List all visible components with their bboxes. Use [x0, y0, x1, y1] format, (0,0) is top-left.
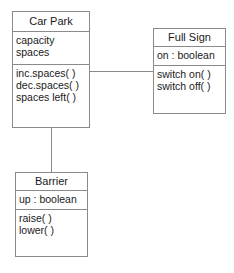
operation: raise( ) — [19, 212, 85, 224]
operations-section: inc.spaces( ) dec.spaces( ) spaces left(… — [13, 65, 89, 103]
operation: switch on( ) — [157, 68, 223, 80]
association-carpark-fullsign — [89, 71, 153, 72]
class-name: Car Park — [13, 12, 89, 32]
class-name: Barrier — [16, 173, 87, 191]
operation: dec.spaces( ) — [16, 79, 87, 91]
attribute: up : boolean — [19, 193, 85, 205]
attribute: on : boolean — [157, 49, 223, 61]
attributes-section: up : boolean — [16, 191, 87, 210]
operations-section: raise( ) lower( ) — [16, 210, 87, 236]
attribute: spaces — [16, 46, 87, 58]
operation: inc.spaces( ) — [16, 67, 87, 79]
operation: spaces left( ) — [16, 91, 87, 103]
operations-section: switch on( ) switch off( ) — [154, 66, 225, 92]
class-name: Full Sign — [154, 29, 225, 47]
attributes-section: on : boolean — [154, 47, 225, 66]
attribute: capacity — [16, 34, 87, 46]
operation: lower( ) — [19, 224, 85, 236]
attributes-section: capacity spaces — [13, 32, 89, 65]
operation: switch off( ) — [157, 80, 223, 92]
association-carpark-barrier — [51, 127, 52, 172]
class-full-sign[interactable]: Full Sign on : boolean switch on( ) swit… — [153, 28, 226, 114]
class-car-park[interactable]: Car Park capacity spaces inc.spaces( ) d… — [12, 11, 90, 128]
class-barrier[interactable]: Barrier up : boolean raise( ) lower( ) — [15, 172, 88, 257]
